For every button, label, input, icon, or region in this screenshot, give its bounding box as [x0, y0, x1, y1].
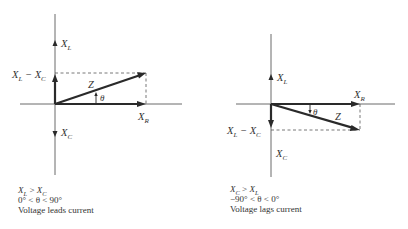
label-net-reactance: XL − XC	[226, 125, 261, 139]
impedance-arrowhead-icon	[350, 125, 360, 131]
net-reactance-arrowhead-icon	[268, 120, 274, 128]
label-z: Z	[88, 79, 94, 90]
caption-description: Voltage lags current	[230, 204, 302, 214]
phasor-diagram-inductive: XL XC XR XL − XC Z θ XL > XC 0° < θ < 90…	[11, 14, 182, 215]
label-xc: XC	[60, 127, 72, 141]
theta-arrow-icon	[308, 110, 311, 114]
resistance-arrowhead-icon	[351, 101, 360, 107]
label-xr: XR	[353, 89, 365, 103]
label-z: Z	[335, 111, 341, 122]
impedance-vector	[55, 76, 139, 105]
xc-arrow-icon	[53, 131, 58, 137]
impedance-phasor-diagrams: XL XC XR XL − XC Z θ XL > XC 0° < θ < 90…	[0, 0, 408, 229]
label-xl: XL	[276, 72, 287, 86]
net-reactance-arrowhead-icon	[52, 74, 58, 82]
label-theta: θ	[313, 107, 318, 117]
label-xl: XL	[60, 38, 71, 52]
resistance-arrowhead-icon	[137, 101, 146, 107]
label-theta: θ	[100, 93, 105, 103]
theta-arrow-icon	[94, 92, 97, 96]
label-xc: XC	[275, 148, 287, 162]
caption-angle-range: −90° < θ < 0°	[230, 194, 280, 204]
caption-angle-range: 0° < θ < 90°	[18, 195, 63, 205]
caption-description: Voltage leads current	[18, 205, 94, 215]
xl-arrow-icon	[53, 40, 58, 46]
impedance-arrowhead-icon	[137, 72, 146, 78]
label-net-reactance: XL − XC	[11, 69, 46, 83]
xl-arrow-icon	[269, 74, 274, 80]
phasor-diagram-capacitive: XL XC XR XL − XC Z θ XC > XL −90° < θ < …	[226, 34, 395, 214]
label-xr: XR	[137, 111, 149, 125]
